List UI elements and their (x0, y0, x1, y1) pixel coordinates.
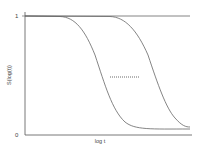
y-tick-1: 1 (15, 13, 19, 19)
curve-1 (25, 16, 190, 129)
curve-2 (25, 16, 190, 127)
y-axis-label: S(log(t)) (6, 65, 12, 85)
x-axis-label: log t (95, 138, 106, 144)
y-tick-0: 0 (15, 132, 19, 138)
survival-chart: 1 0 log t S(log(t)) (0, 0, 200, 150)
